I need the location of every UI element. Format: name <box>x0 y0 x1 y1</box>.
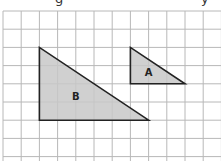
triangle-label-a: A <box>145 67 153 78</box>
grid-diagram: g y BA <box>0 0 221 161</box>
grid-lines <box>3 11 221 161</box>
triangle-label-b: B <box>72 91 80 102</box>
grid-canvas: BA <box>0 0 221 161</box>
